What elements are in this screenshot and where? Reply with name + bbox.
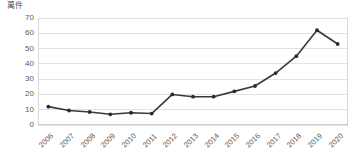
y-tick-label-50: 50 — [0, 45, 34, 53]
y-tick-label-10: 10 — [0, 106, 34, 114]
y-tick-label-40: 40 — [0, 60, 34, 68]
data-point-2011 — [150, 112, 154, 116]
data-point-2019 — [315, 28, 319, 32]
y-tick-label-0: 0 — [0, 121, 34, 129]
y-tick-label-60: 60 — [0, 29, 34, 37]
x-tick-label-2008: 2008 — [79, 131, 97, 149]
data-point-2015 — [232, 89, 236, 93]
chart-screenshot: 萬件 010203040506070 200620072008200920102… — [0, 0, 356, 164]
x-tick-label-2016: 2016 — [244, 131, 262, 149]
data-point-2020 — [336, 42, 340, 46]
data-point-2014 — [212, 95, 216, 99]
x-axis-tick-labels: 2006200720082009201020112012201320142015… — [38, 125, 348, 164]
line-series-svg — [38, 18, 348, 125]
y-tick-label-70: 70 — [0, 14, 34, 22]
plot-area — [38, 18, 348, 125]
x-tick-label-2006: 2006 — [37, 131, 55, 149]
x-tick-label-2011: 2011 — [141, 132, 159, 150]
y-tick-label-30: 30 — [0, 75, 34, 83]
data-point-2010 — [129, 111, 133, 115]
data-point-2009 — [108, 112, 112, 116]
x-tick-label-2010: 2010 — [120, 131, 138, 149]
x-tick-label-2009: 2009 — [99, 131, 117, 149]
data-point-2007 — [67, 109, 71, 113]
x-tick-label-2007: 2007 — [58, 131, 76, 149]
y-tick-label-20: 20 — [0, 90, 34, 98]
x-tick-label-2017: 2017 — [265, 131, 283, 149]
x-tick-label-2014: 2014 — [203, 131, 221, 149]
x-tick-label-2018: 2018 — [285, 131, 303, 149]
data-point-2013 — [191, 95, 195, 99]
data-point-2008 — [88, 110, 92, 114]
x-tick-label-2012: 2012 — [161, 131, 179, 149]
x-tick-label-2019: 2019 — [306, 131, 324, 149]
y-axis-unit-label: 萬件 — [7, 1, 23, 11]
data-point-2012 — [170, 93, 174, 97]
series-line — [48, 30, 337, 114]
y-axis-tick-labels: 010203040506070 — [0, 18, 34, 125]
data-point-2017 — [274, 71, 278, 75]
x-tick-label-2013: 2013 — [182, 131, 200, 149]
x-tick-label-2020: 2020 — [327, 131, 345, 149]
data-point-2018 — [294, 54, 298, 58]
x-tick-label-2015: 2015 — [223, 131, 241, 149]
data-point-2006 — [46, 105, 50, 109]
data-point-2016 — [253, 84, 257, 88]
